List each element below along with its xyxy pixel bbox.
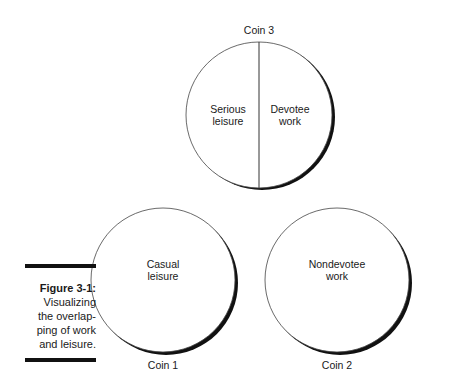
serious-leisure-label: Serious leisure [200, 103, 256, 127]
coin-1-label: Coin 1 [123, 359, 203, 371]
caption-line: and leisure. [14, 337, 96, 351]
figure-number: Figure 3-1: [14, 281, 96, 295]
nondevotee-work-line1: Nondevotee [297, 258, 377, 270]
casual-leisure-line2: leisure [123, 270, 203, 282]
caption-bottom-rule [25, 358, 96, 362]
coin-3-label: Coin 3 [219, 24, 299, 36]
devotee-work-line2: work [262, 115, 318, 127]
devotee-work-line1: Devotee [262, 103, 318, 115]
casual-leisure-label: Casual leisure [123, 258, 203, 282]
devotee-work-label: Devotee work [262, 103, 318, 127]
serious-leisure-line1: Serious [200, 103, 256, 115]
nondevotee-work-label: Nondevotee work [297, 258, 377, 282]
figure-caption: Figure 3-1: Visualizing the overlap- pin… [14, 281, 96, 351]
casual-leisure-line1: Casual [123, 258, 203, 270]
caption-line: the overlap- [14, 309, 96, 323]
serious-leisure-line2: leisure [200, 115, 256, 127]
coin-2-label: Coin 2 [297, 359, 377, 371]
caption-line: Visualizing [14, 295, 96, 309]
caption-top-rule [25, 264, 96, 268]
caption-line: ping of work [14, 323, 96, 337]
nondevotee-work-line2: work [297, 270, 377, 282]
